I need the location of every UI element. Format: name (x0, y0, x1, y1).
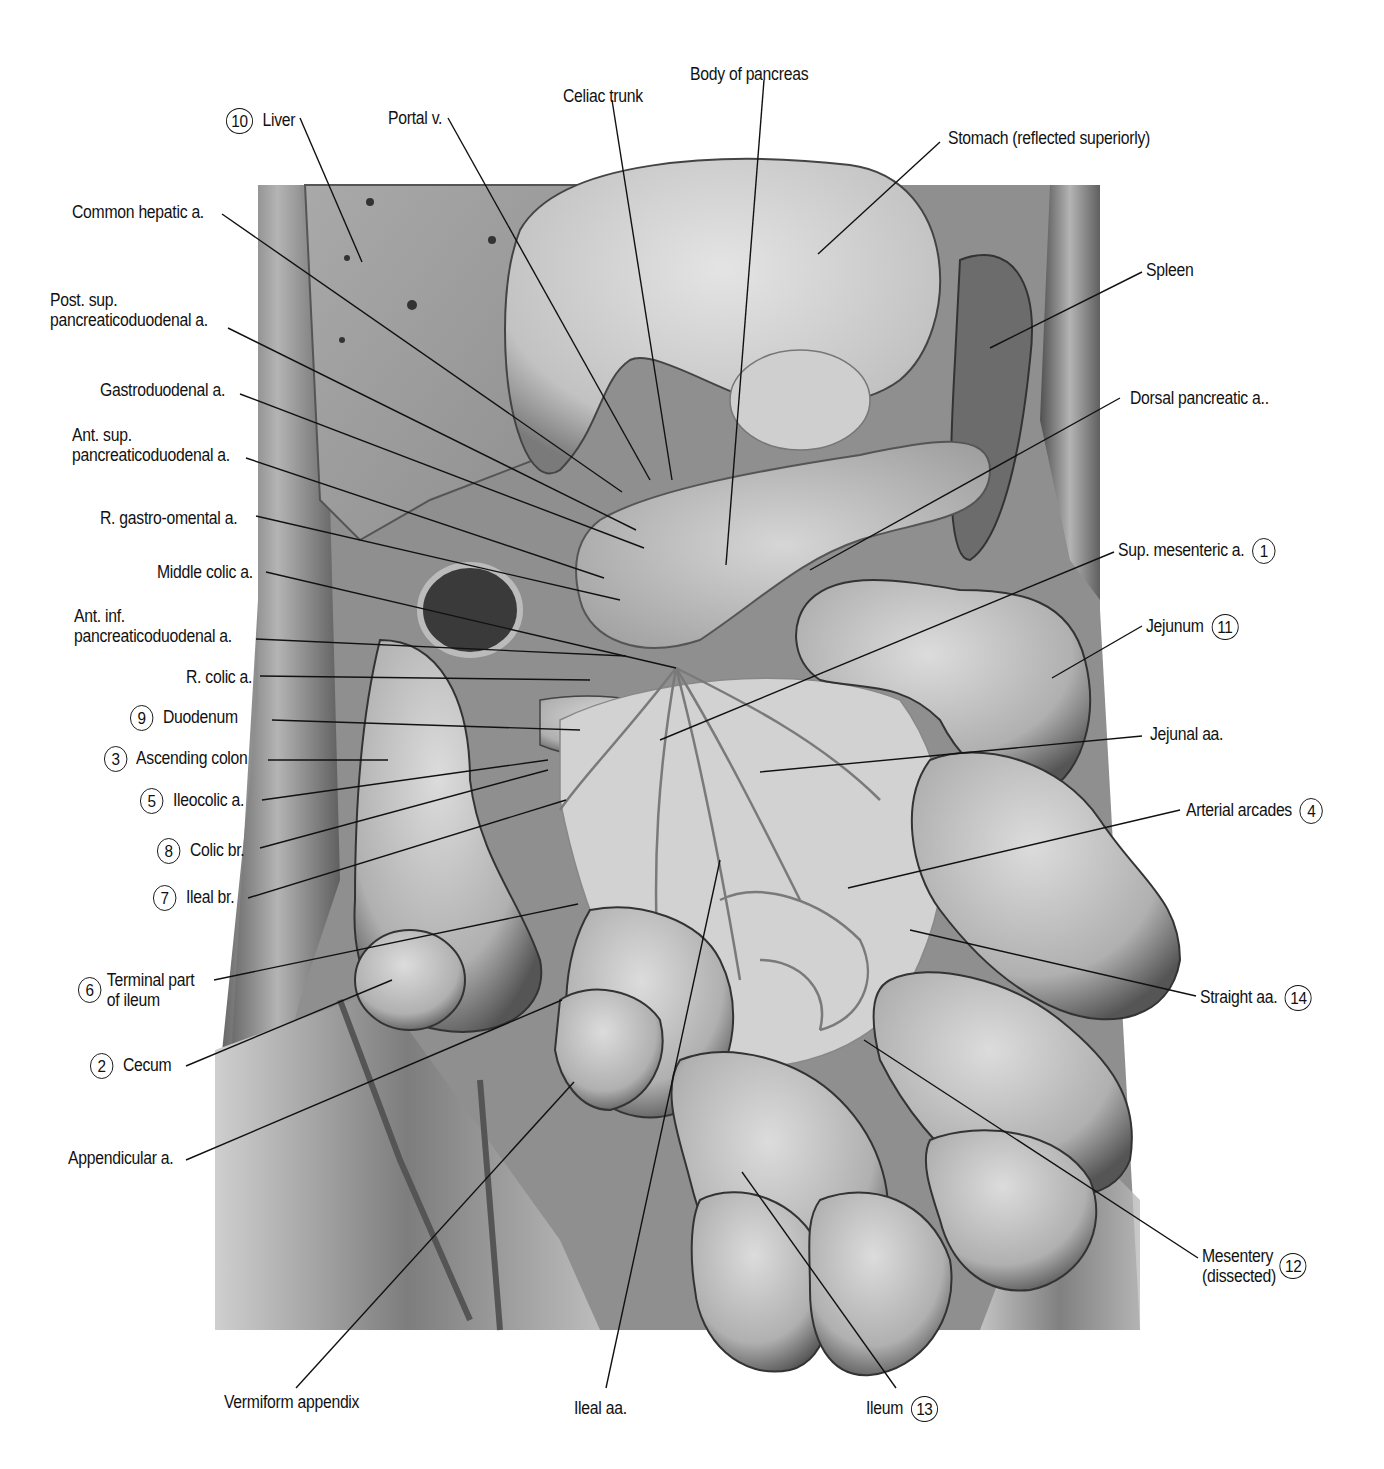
label-text: Mesentery (dissected) (1202, 1246, 1276, 1286)
label-jejunal-aa: Jejunal aa. (1150, 724, 1223, 744)
label-ant-sup-pd: Ant. sup. pancreaticoduodenal a. (72, 425, 230, 465)
label-text: Appendicular a. (68, 1148, 173, 1168)
reference-number-icon: 5 (140, 788, 163, 814)
label-text: Liver (263, 110, 296, 130)
reference-number-icon: 13 (911, 1396, 938, 1422)
label-spleen: Spleen (1146, 260, 1193, 280)
label-middle-colic: Middle colic a. (157, 562, 253, 582)
label-text: Arterial arcades (1186, 800, 1292, 820)
label-common-hepatic: Common hepatic a. (72, 202, 204, 222)
label-text: Cecum (123, 1055, 172, 1075)
label-text: Spleen (1146, 260, 1193, 280)
reference-number-icon: 8 (157, 838, 180, 864)
label-r-gastro-omental: R. gastro-omental a. (100, 508, 237, 528)
label-text: Ant. sup. pancreaticoduodenal a. (72, 425, 230, 465)
label-text: Sup. mesenteric a. (1118, 540, 1244, 560)
reference-number-icon: 9 (130, 705, 153, 731)
label-ileum: Ileum 13 (866, 1396, 938, 1422)
reference-number-icon: 1 (1252, 538, 1275, 564)
label-text: Ant. inf. pancreaticoduodenal a. (74, 606, 232, 646)
reference-number-icon: 12 (1280, 1253, 1307, 1279)
label-vermiform-appendix: Vermiform appendix (224, 1392, 359, 1412)
label-text: Post. sup. pancreaticoduodenal a. (50, 290, 208, 330)
label-jejunum: Jejunum 11 (1146, 614, 1238, 640)
label-mesentery: Mesentery (dissected) 12 (1202, 1246, 1307, 1286)
label-text: Stomach (reflected superiorly) (948, 128, 1150, 148)
label-ileocolic: 5 Ileocolic a. (140, 788, 244, 814)
colon-cut-end (420, 565, 520, 655)
label-text: Vermiform appendix (224, 1392, 359, 1412)
label-body-of-pancreas: Body of pancreas (690, 64, 808, 84)
reference-number-icon: 3 (104, 746, 127, 772)
label-appendicular: Appendicular a. (68, 1148, 173, 1168)
label-colic-br: 8 Colic br. (157, 838, 244, 864)
label-portal-v: Portal v. (388, 108, 442, 128)
label-text: Ileal br. (186, 887, 234, 907)
label-text: Body of pancreas (690, 64, 808, 84)
label-text: Ileum (866, 1398, 903, 1418)
label-text: Ascending colon (136, 748, 248, 768)
reference-number-icon: 14 (1285, 985, 1312, 1011)
label-celiac-trunk: Celiac trunk (563, 86, 643, 106)
label-text: Middle colic a. (157, 562, 253, 582)
label-ant-inf-pd: Ant. inf. pancreaticoduodenal a. (74, 606, 232, 646)
label-text: Terminal part of ileum (107, 970, 195, 1010)
label-sup-mesenteric: Sup. mesenteric a. 1 (1118, 538, 1276, 564)
label-text: Ileal aa. (574, 1398, 627, 1418)
label-text: Duodenum (163, 707, 238, 727)
label-post-sup-pd: Post. sup. pancreaticoduodenal a. (50, 290, 208, 330)
label-r-colic: R. colic a. (186, 667, 252, 687)
label-gastroduodenal: Gastroduodenal a. (100, 380, 225, 400)
label-terminal-ileum: 6 Terminal part of ileum (78, 970, 194, 1010)
reference-number-icon: 11 (1211, 614, 1238, 640)
label-text: Jejunum (1146, 616, 1204, 636)
label-text: Colic br. (190, 840, 244, 860)
label-text: Jejunal aa. (1150, 724, 1223, 744)
label-text: Straight aa. (1200, 987, 1277, 1007)
reference-number-icon: 7 (153, 885, 176, 911)
kidney (730, 350, 870, 450)
label-text: Gastroduodenal a. (100, 380, 225, 400)
label-duodenum: 9 Duodenum (130, 705, 238, 731)
cecum (355, 930, 465, 1030)
label-ileal-br: 7 Ileal br. (153, 885, 234, 911)
label-arterial-arcades: Arterial arcades 4 (1186, 798, 1323, 824)
label-text: Portal v. (388, 108, 442, 128)
label-text: Celiac trunk (563, 86, 643, 106)
label-text: Ileocolic a. (173, 790, 244, 810)
reference-number-icon: 10 (226, 108, 253, 134)
label-dorsal-pancreatic: Dorsal pancreatic a.. (1130, 388, 1269, 408)
reference-number-icon: 4 (1300, 798, 1323, 824)
label-text: R. colic a. (186, 667, 252, 687)
label-liver: 10 Liver (226, 108, 295, 134)
label-straight-aa: Straight aa. 14 (1200, 985, 1312, 1011)
label-stomach: Stomach (reflected superiorly) (948, 128, 1150, 148)
label-cecum: 2 Cecum (90, 1053, 171, 1079)
label-ileal-aa: Ileal aa. (574, 1398, 627, 1418)
label-text: Dorsal pancreatic a.. (1130, 388, 1269, 408)
label-ascending-colon: 3 Ascending colon (104, 746, 248, 772)
label-text: R. gastro-omental a. (100, 508, 237, 528)
label-text: Common hepatic a. (72, 202, 204, 222)
reference-number-icon: 2 (90, 1053, 113, 1079)
reference-number-icon: 6 (78, 977, 101, 1003)
